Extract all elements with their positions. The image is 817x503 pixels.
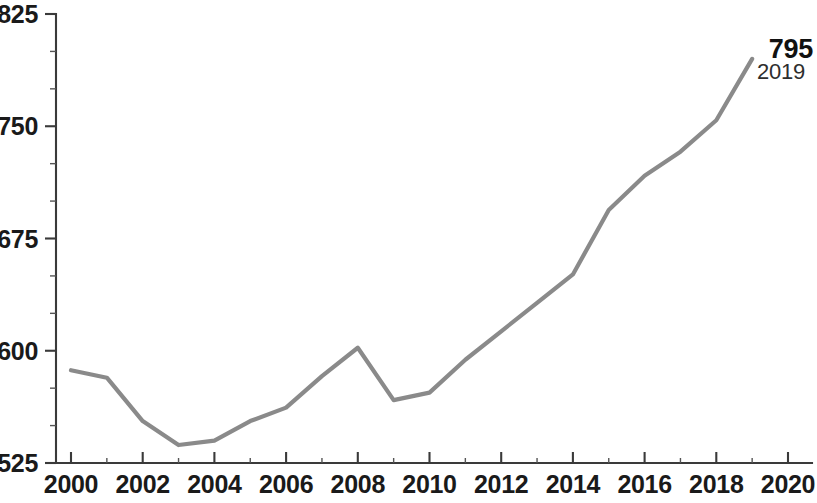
y-axis-ticks [45, 14, 56, 463]
endpoint-annotation: 795 2019 [757, 34, 813, 84]
x-axis: 2000200220042006200820102012201420162018… [44, 452, 815, 498]
y-tick-label: 600 [0, 337, 38, 365]
data-line-series-0 [71, 59, 752, 445]
x-tick-label: 2012 [474, 470, 528, 498]
chart-canvas: 525600675750825 200020022004200620082010… [0, 0, 817, 503]
x-tick-label: 2006 [259, 470, 313, 498]
x-tick-label: 2010 [402, 470, 456, 498]
endpoint-year-label: 2019 [757, 59, 805, 84]
y-tick-label: 825 [0, 0, 38, 28]
x-tick-label: 2008 [331, 470, 386, 498]
x-tick-label: 2016 [617, 470, 671, 498]
x-axis-ticks [71, 452, 788, 463]
x-tick-label: 2004 [187, 470, 242, 498]
x-tick-label: 2018 [689, 470, 744, 498]
x-tick-label: 2020 [761, 470, 815, 498]
x-tick-label: 2014 [546, 470, 601, 498]
data-series-group [71, 59, 752, 445]
line-chart: 525600675750825 200020022004200620082010… [0, 0, 817, 503]
y-axis-tick-labels: 525600675750825 [0, 0, 38, 477]
y-tick-label: 750 [0, 112, 38, 140]
x-tick-label: 2000 [44, 470, 98, 498]
x-axis-tick-labels: 2000200220042006200820102012201420162018… [44, 470, 815, 498]
y-axis: 525600675750825 [0, 0, 56, 477]
y-tick-label: 675 [0, 225, 38, 253]
x-tick-label: 2002 [115, 470, 169, 498]
y-tick-label: 525 [0, 449, 38, 477]
